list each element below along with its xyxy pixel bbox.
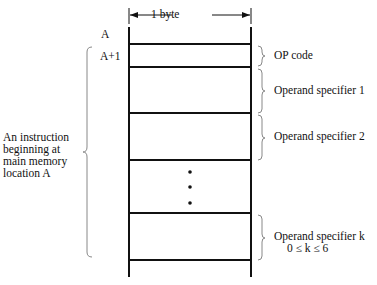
brace-operand-1 bbox=[258, 69, 265, 113]
field-operand-2-label: Operand specifier 2 bbox=[274, 130, 365, 143]
brace-instruction bbox=[83, 47, 92, 257]
instruction-note-line: main memory bbox=[3, 155, 69, 167]
instruction-note-line: An instruction bbox=[3, 131, 69, 143]
ellipsis-dots bbox=[188, 170, 192, 205]
memory-column bbox=[129, 27, 251, 277]
brace-operand-2 bbox=[258, 115, 265, 160]
instruction-note-line: location A bbox=[3, 167, 69, 179]
byte-width-arrow bbox=[129, 8, 251, 24]
byte-width-label: 1 byte bbox=[151, 8, 179, 21]
field-operand-k-range: 0 ≤ k ≤ 6 bbox=[287, 242, 328, 255]
instruction-note: An instruction beginning at main memory … bbox=[3, 131, 69, 179]
brace-operand-k bbox=[258, 215, 265, 260]
address-a: A bbox=[101, 28, 109, 41]
instruction-note-line: beginning at bbox=[3, 143, 69, 155]
brace-opcode bbox=[258, 46, 265, 66]
memory-cell-dividers bbox=[129, 44, 251, 260]
field-operand-1-label: Operand specifier 1 bbox=[274, 84, 365, 97]
field-opcode-label: OP code bbox=[274, 49, 313, 62]
address-a-plus-1: A+1 bbox=[100, 50, 121, 63]
